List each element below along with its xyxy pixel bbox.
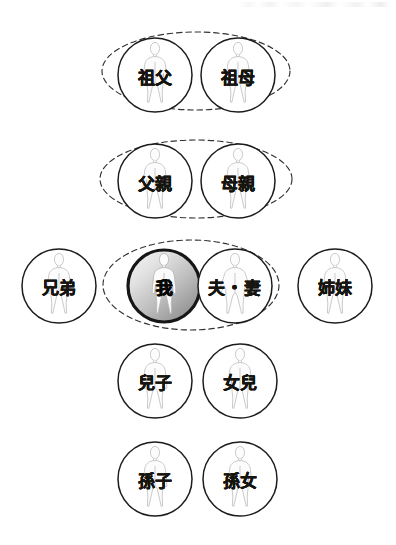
- node-granddaughter[interactable]: [203, 442, 277, 516]
- node-brothers[interactable]: [22, 249, 96, 323]
- row-grandchildren: [118, 442, 277, 516]
- node-father[interactable]: [118, 144, 192, 218]
- node-grandson[interactable]: [118, 442, 192, 516]
- node-daughter[interactable]: [203, 344, 277, 418]
- node-self[interactable]: [128, 250, 200, 322]
- row-self-generation: [22, 249, 372, 323]
- row-grandparents: [118, 38, 275, 112]
- node-mother[interactable]: [201, 144, 275, 218]
- row-children: [118, 344, 277, 418]
- family-kinship-diagram: 祖父 祖母 父親 母親 兄弟 我 夫・妻 姉妹 兒子 女兒 孫子 孫女: [0, 0, 396, 545]
- node-grandfather[interactable]: [118, 38, 192, 112]
- diagram-canvas: [0, 0, 396, 545]
- node-grandmother[interactable]: [201, 38, 275, 112]
- node-son[interactable]: [118, 344, 192, 418]
- node-spouse[interactable]: [198, 249, 272, 323]
- row-parents: [118, 144, 275, 218]
- node-sisters[interactable]: [298, 249, 372, 323]
